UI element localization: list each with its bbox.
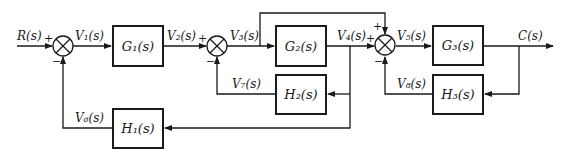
block-h2: H₂(s) — [275, 74, 327, 115]
block-h1-label: H₁(s) — [121, 121, 154, 136]
sign-s2-plus: + — [198, 33, 207, 44]
signal-v5: V₅(s) — [397, 30, 426, 42]
sign-s3-plus-top: + — [373, 21, 382, 32]
signal-v7: V₇(s) — [232, 78, 261, 90]
block-h1: H₁(s) — [112, 108, 164, 149]
block-g2: G₂(s) — [275, 25, 327, 67]
signal-c: C(s) — [518, 30, 543, 42]
signal-v6: V₆(s) — [75, 112, 104, 124]
block-h3: H₃(s) — [432, 74, 484, 115]
block-g1-label: G₁(s) — [122, 39, 154, 54]
block-g2-label: G₂(s) — [285, 39, 317, 54]
sign-s2-minus: − — [206, 56, 215, 67]
block-g1: G₁(s) — [112, 25, 164, 67]
signal-v4: V₄(s) — [337, 30, 366, 42]
signal-v8: V₈(s) — [397, 78, 426, 90]
block-diagram: G₁(s) G₂(s) G₃(s) H₁(s) H₂(s) H₃(s) R(s)… — [0, 0, 566, 156]
signal-v3: V₃(s) — [230, 30, 259, 42]
block-h2-label: H₂(s) — [284, 87, 317, 102]
signal-v1: V₁(s) — [75, 30, 104, 42]
signal-v2: V₂(s) — [167, 30, 196, 42]
sign-s3-minus: − — [374, 56, 383, 67]
sign-s1-minus: − — [52, 56, 61, 67]
block-g3-label: G₃(s) — [442, 38, 474, 53]
sign-s1-plus: + — [44, 33, 53, 44]
signal-r: R(s) — [17, 30, 42, 42]
block-h3-label: H₃(s) — [441, 87, 474, 102]
block-g3: G₃(s) — [432, 25, 484, 66]
sign-s3-plus-left: + — [366, 33, 375, 44]
